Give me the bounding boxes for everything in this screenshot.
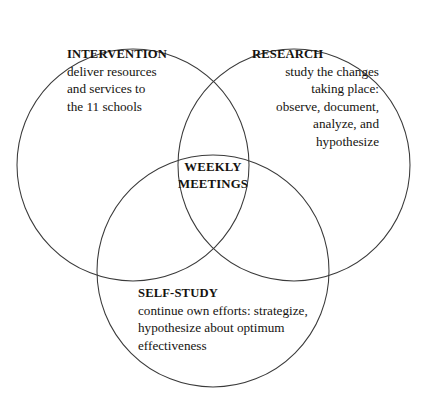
research-line-4: analyze, and xyxy=(198,115,379,133)
research-line-2: taking place: xyxy=(198,80,379,98)
intervention-line-3: the 11 schools xyxy=(67,98,167,116)
intervention-title: INTERVENTION xyxy=(67,46,167,63)
research-line-5: hypothesize xyxy=(198,133,379,151)
intervention-line-2: and services to xyxy=(67,80,167,98)
weekly-meetings-label-block: WEEKLY MEETINGS xyxy=(145,159,281,194)
venn-diagram: INTERVENTION deliver resources and servi… xyxy=(0,0,426,406)
intervention-line-1: deliver resources xyxy=(67,63,167,81)
self-study-line-1: continue own efforts: strategize, xyxy=(138,302,308,320)
self-study-line-2: hypothesize about optimum xyxy=(138,319,308,337)
self-study-title: SELF-STUDY xyxy=(138,285,308,302)
weekly-meetings-line-1: WEEKLY xyxy=(145,159,281,176)
self-study-line-3: effectiveness xyxy=(138,337,308,355)
research-line-1: study the changes xyxy=(198,63,379,81)
self-study-label-block: SELF-STUDY continue own efforts: strateg… xyxy=(138,285,308,354)
research-title: RESEARCH xyxy=(198,46,379,63)
weekly-meetings-line-2: MEETINGS xyxy=(145,176,281,193)
research-label-block: RESEARCH study the changes taking place:… xyxy=(198,46,379,150)
intervention-label-block: INTERVENTION deliver resources and servi… xyxy=(67,46,167,115)
research-line-3: observe, document, xyxy=(198,98,379,116)
